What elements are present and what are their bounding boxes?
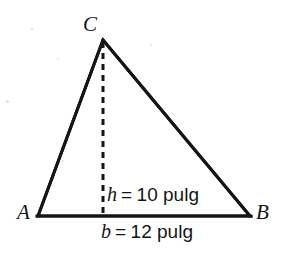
height-value: 10 — [137, 184, 158, 205]
base-measure-label: b=12 pulg — [101, 221, 193, 241]
height-unit: pulg — [163, 184, 199, 205]
base-unit: pulg — [157, 221, 193, 242]
scan-speck — [31, 28, 33, 30]
height-measure-label: h=10 pulg — [107, 184, 199, 204]
base-equals-sign: = — [115, 221, 127, 242]
scan-speck — [150, 44, 152, 46]
scan-speck — [6, 100, 9, 103]
triangle-edge-ac — [38, 40, 103, 216]
base-symbol: b — [101, 220, 111, 242]
base-value: 12 — [131, 221, 152, 242]
vertex-label-b: B — [256, 202, 269, 223]
geometry-figure: C A B h=10 pulg b=12 pulg — [0, 0, 283, 262]
scan-speck — [62, 160, 64, 162]
height-equals-sign: = — [121, 184, 133, 205]
height-symbol: h — [107, 183, 117, 205]
vertex-label-a: A — [17, 202, 30, 223]
scan-speck — [57, 58, 59, 60]
vertex-label-c: C — [83, 14, 97, 35]
